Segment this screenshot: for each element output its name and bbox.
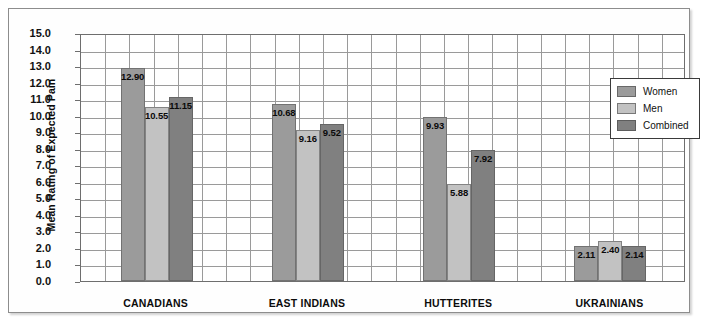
bar-canadians-combined: 11.15 — [169, 97, 193, 281]
y-tick-5.0: 5.0 — [11, 193, 51, 204]
legend-swatch-combined — [617, 120, 636, 131]
bar-value-label: 2.11 — [578, 249, 596, 260]
category-label-hutterites: HUTTERITES — [424, 297, 492, 309]
y-tick-2.0: 2.0 — [11, 243, 51, 254]
y-tick-12.0: 12.0 — [11, 78, 51, 89]
y-tick-11.0: 11.0 — [11, 94, 51, 105]
bar-value-label: 7.92 — [474, 153, 492, 164]
bar-value-label: 10.55 — [145, 110, 168, 121]
y-tick-4.0: 4.0 — [11, 210, 51, 221]
y-tick-8.0: 8.0 — [11, 144, 51, 155]
gridline-vertical — [517, 35, 518, 281]
gridline-vertical — [589, 35, 590, 281]
gridline-vertical — [226, 35, 227, 281]
bar-value-label: 9.93 — [426, 120, 444, 131]
chart-frame: Mean Rating of Expected Pain 15.014.013.… — [8, 8, 690, 313]
legend-label-women: Women — [643, 86, 677, 97]
legend-label-men: Men — [643, 103, 662, 114]
bar-hutterites-women: 9.93 — [423, 117, 447, 281]
bar-canadians-women: 12.90 — [121, 68, 145, 281]
bar-hutterites-men: 5.88 — [447, 184, 471, 281]
plot-area: 12.9010.5511.1510.689.169.529.935.887.92… — [80, 34, 685, 282]
gridline-vertical — [202, 35, 203, 281]
gridline-vertical — [105, 35, 106, 281]
legend-item-women: Women — [617, 84, 693, 99]
gridline-horizontal — [81, 85, 684, 86]
bar-ukrainians-women: 2.11 — [574, 246, 598, 281]
bar-ukrainians-combined: 2.14 — [622, 246, 646, 281]
bar-value-label: 9.16 — [299, 133, 317, 144]
y-tick-10.0: 10.0 — [11, 111, 51, 122]
y-tick-13.0: 13.0 — [11, 61, 51, 72]
gridline-vertical — [662, 35, 663, 281]
y-tick-9.0: 9.0 — [11, 127, 51, 138]
bar-east-indians-combined: 9.52 — [320, 124, 344, 281]
legend-item-men: Men — [617, 101, 693, 116]
bar-hutterites-combined: 7.92 — [471, 150, 495, 281]
gridline-vertical — [371, 35, 372, 281]
y-tick-15.0: 15.0 — [11, 28, 51, 39]
bar-east-indians-men: 9.16 — [296, 130, 320, 281]
bar-value-label: 2.14 — [625, 249, 643, 260]
y-tick-1.0: 1.0 — [11, 259, 51, 270]
gridline-vertical — [250, 35, 251, 281]
legend-swatch-men — [617, 103, 636, 114]
bar-canadians-men: 10.55 — [145, 107, 169, 281]
bar-value-label: 9.52 — [323, 127, 341, 138]
chart-legend: Women Men Combined — [610, 78, 700, 139]
gridline-vertical — [638, 35, 639, 281]
legend-swatch-women — [617, 86, 636, 97]
y-tick-14.0: 14.0 — [11, 45, 51, 56]
category-label-east-indians: EAST INDIANS — [269, 297, 346, 309]
category-label-canadians: CANADIANS — [123, 297, 188, 309]
bar-east-indians-women: 10.68 — [272, 104, 296, 281]
bar-value-label: 2.40 — [601, 244, 619, 255]
legend-label-combined: Combined — [643, 120, 689, 131]
y-tick-0.0: 0.0 — [11, 276, 51, 287]
chart-figure: Mean Rating of Expected Pain 15.014.013.… — [0, 0, 702, 324]
bar-ukrainians-men: 2.40 — [598, 241, 622, 281]
category-label-ukrainians: UKRAINIANS — [575, 297, 643, 309]
gridline-horizontal — [81, 68, 684, 69]
bar-value-label: 10.68 — [272, 107, 295, 118]
gridline-vertical — [347, 35, 348, 281]
y-tick-6.0: 6.0 — [11, 177, 51, 188]
bar-value-label: 12.90 — [121, 71, 144, 82]
y-tickmark — [75, 282, 80, 283]
gridline-vertical — [420, 35, 421, 281]
gridline-horizontal — [81, 52, 684, 53]
y-tick-3.0: 3.0 — [11, 226, 51, 237]
gridline-vertical — [565, 35, 566, 281]
legend-item-combined: Combined — [617, 118, 693, 133]
gridline-vertical — [541, 35, 542, 281]
bar-value-label: 5.88 — [450, 187, 468, 198]
gridline-vertical — [396, 35, 397, 281]
y-tick-7.0: 7.0 — [11, 160, 51, 171]
bar-value-label: 11.15 — [169, 100, 192, 111]
